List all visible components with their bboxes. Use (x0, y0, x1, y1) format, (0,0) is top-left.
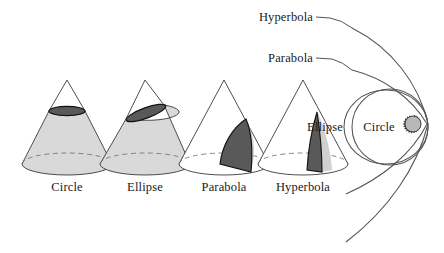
leader-line-hyperbola (316, 17, 352, 28)
sun-icon (403, 115, 421, 133)
conic-sections-figure: Circle Ellipse Parabola Hyperbola Ellips… (0, 0, 444, 253)
cone-label-ellipse: Ellipse (127, 180, 163, 195)
callout-label-hyperbola: Hyperbola (259, 10, 313, 25)
cone-parabola (179, 80, 269, 175)
cone-label-hyperbola: Hyperbola (276, 180, 330, 195)
callout-label-parabola: Parabola (268, 51, 313, 66)
sun-disc (405, 116, 421, 132)
orbit-label-circle: Circle (363, 120, 394, 135)
cone-label-circle: Circle (51, 180, 82, 195)
orbit-label-ellipse: Ellipse (307, 120, 343, 135)
cone-label-parabola: Parabola (202, 180, 247, 195)
cone-circle-body (22, 111, 112, 175)
cone-ellipse (100, 80, 190, 175)
cone-circle-cross-section (49, 106, 85, 115)
orbit-path-hyperbola (346, 28, 428, 242)
cone-circle (22, 80, 112, 175)
leader-line-parabola (316, 58, 352, 70)
